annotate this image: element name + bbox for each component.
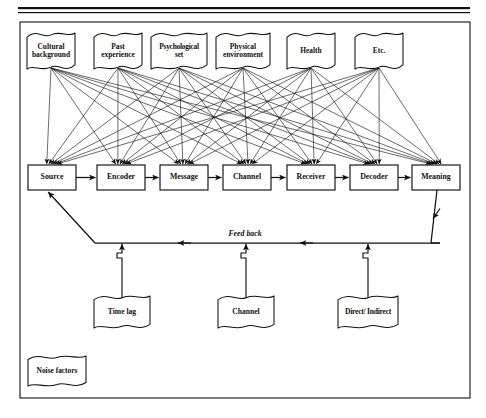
- diagram-canvas: Cultural backgroundPast experiencePsycho…: [0, 0, 486, 418]
